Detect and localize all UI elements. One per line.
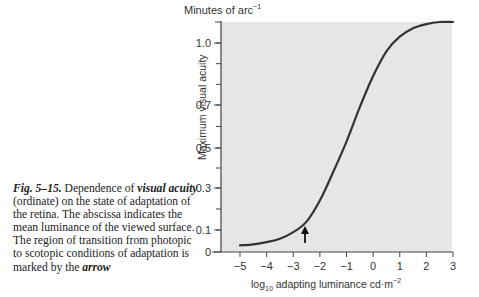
y-tick-label: 1.0 [196, 37, 211, 49]
y-tick-label: 0.7 [196, 99, 211, 111]
x-tick-label: 3 [450, 260, 456, 272]
y-tick-label: 0.5 [196, 142, 211, 154]
x-tick-label: 1 [397, 260, 403, 272]
figure-caption: Fig. 5–15. Dependence of visual acuity (… [13, 182, 198, 274]
x-tick-label: −5 [234, 260, 247, 272]
x-tick-label: 2 [423, 260, 429, 272]
x-tick-label: 0 [370, 260, 376, 272]
x-tick-label: −4 [260, 260, 273, 272]
x-axis-title: log10 adapting luminance cd·m−2 [251, 277, 401, 292]
figure-number: Fig. 5–15. [13, 182, 62, 195]
x-tick-label: −1 [340, 260, 353, 272]
y-tick-label: 0 [205, 246, 211, 258]
x-tick-label: −2 [314, 260, 327, 272]
x-tick-label: −3 [287, 260, 300, 272]
plot-area [221, 22, 452, 252]
